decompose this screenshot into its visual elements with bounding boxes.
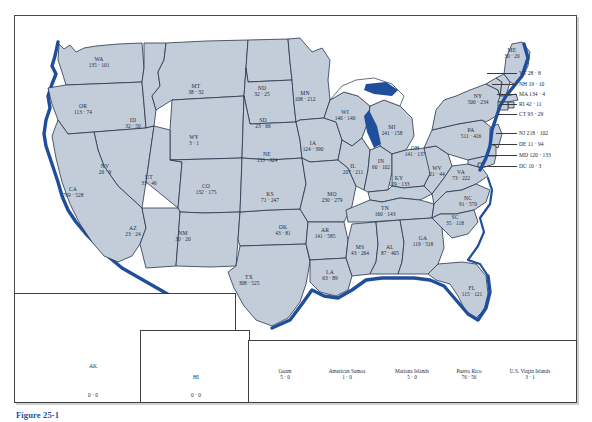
state-AR (306, 222, 348, 260)
callout-label: RI 42 · 11 (519, 101, 542, 107)
callout-leader-line (492, 144, 517, 145)
state-NM (176, 212, 240, 267)
callout-leader-line (492, 84, 517, 85)
callout-leader-line (498, 114, 517, 115)
territory-label: Guam5 · 0 (279, 368, 292, 380)
state-OK (238, 209, 308, 246)
hawaii-inset-frame (140, 330, 250, 403)
callout-label: MD 120 · 133 (519, 152, 551, 158)
state-MN (288, 38, 330, 122)
callout-label: NJ 218 · 102 (519, 130, 548, 136)
callout-label: NH 19 · 10 (519, 81, 544, 87)
callout-leader-line (484, 166, 517, 167)
territory-values: 1 · 0 (329, 374, 366, 380)
callout-leader-line (487, 73, 517, 74)
figure-page: WA135 · 101OR113 · 74ID32 · 50MT38 · 32N… (0, 0, 592, 422)
figure-caption: Figure 25-1 (16, 410, 59, 420)
territory-label: U.S. Virgin Islands3 · 1 (510, 368, 550, 380)
callout-label: DC 10 · 3 (519, 163, 541, 169)
territory-values: 5 · 0 (395, 374, 429, 380)
callout-leader-line (497, 94, 517, 95)
state-RI (508, 102, 514, 108)
callout-leader-line (496, 133, 517, 134)
state-IA (296, 118, 342, 162)
state-FL (428, 262, 488, 318)
callout-leader-line (500, 104, 517, 105)
territory-values: 3 · 1 (510, 374, 550, 380)
state-ND (246, 39, 292, 82)
state-WY (170, 96, 244, 160)
territory-values: 5 · 0 (279, 374, 292, 380)
territory-label: Puerto Rico76 · 56 (456, 368, 481, 380)
callout-label: CT 93 · 29 (519, 111, 543, 117)
callout-leader-line (488, 155, 517, 156)
territory-label: Mariana Islands5 · 0 (395, 368, 429, 380)
state-WA (58, 43, 144, 85)
state-TX (228, 244, 310, 326)
state-AZ (140, 208, 180, 268)
territory-values: 76 · 56 (456, 374, 481, 380)
territory-label: American Samoa1 · 0 (329, 368, 366, 380)
state-KS (240, 158, 306, 212)
callout-label: MA 134 · 4 (519, 91, 545, 97)
callout-label: VT 28 · 8 (519, 70, 541, 76)
callout-label: DE 11 · 94 (519, 141, 544, 147)
